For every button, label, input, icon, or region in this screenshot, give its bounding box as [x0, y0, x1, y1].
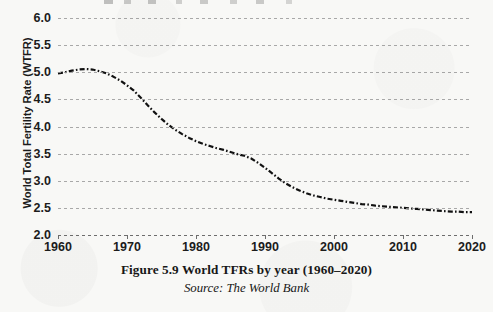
gridline-y-4.0: [58, 127, 472, 128]
x-tick-label-2020: 2020: [458, 240, 486, 254]
y-tick-label-6.0: 6.0: [34, 11, 51, 25]
x-tick-2020: [472, 235, 473, 239]
y-tick-label-4.5: 4.5: [34, 92, 51, 106]
figure-page: World Total Fertility Rate (WTFR) 2.02.5…: [0, 0, 493, 312]
y-tick-label-3.0: 3.0: [34, 174, 51, 188]
y-tick-label-4.0: 4.0: [34, 120, 51, 134]
gridline-y-4.5: [58, 99, 472, 100]
cropped-text-remnant: [104, 0, 334, 4]
y-axis-title: World Total Fertility Rate (WTFR): [21, 18, 33, 228]
x-tick-label-2010: 2010: [389, 240, 417, 254]
wtfr-line: [58, 69, 472, 212]
gridline-y-3.5: [58, 154, 472, 155]
x-tick-2000: [334, 235, 335, 239]
figure-source: Source: The World Bank: [0, 281, 493, 296]
chart-figure: World Total Fertility Rate (WTFR) 2.02.5…: [0, 0, 493, 312]
x-tick-label-1980: 1980: [182, 240, 210, 254]
y-tick-label-3.5: 3.5: [34, 147, 51, 161]
x-tick-label-1970: 1970: [113, 240, 141, 254]
gridline-y-6.0: [58, 18, 472, 19]
y-tick-label-5.5: 5.5: [34, 38, 51, 52]
x-tick-label-1990: 1990: [251, 240, 279, 254]
x-tick-1980: [196, 235, 197, 239]
gridline-y-5.5: [58, 45, 472, 46]
x-tick-1990: [265, 235, 266, 239]
y-tick-label-2.5: 2.5: [34, 201, 51, 215]
x-tick-1960: [58, 235, 59, 239]
plot-area: 2.02.53.03.54.04.55.05.56.01960197019801…: [58, 18, 472, 235]
x-tick-2010: [403, 235, 404, 239]
x-tick-1970: [127, 235, 128, 239]
figure-caption: Figure 5.9 World TFRs by year (1960–2020…: [0, 262, 493, 278]
x-tick-label-1960: 1960: [44, 240, 72, 254]
gridline-y-2.5: [58, 208, 472, 209]
gridline-y-3.0: [58, 181, 472, 182]
y-tick-label-5.0: 5.0: [34, 65, 51, 79]
gridline-y-5.0: [58, 72, 472, 73]
x-tick-label-2000: 2000: [320, 240, 348, 254]
